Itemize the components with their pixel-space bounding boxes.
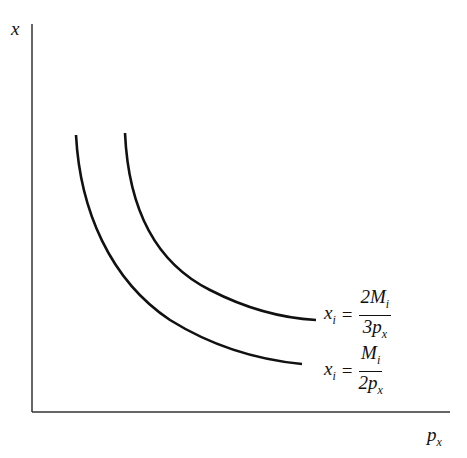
- eq-upper-num-sub: i: [386, 297, 389, 311]
- eq-lower-num: M: [361, 342, 377, 363]
- y-axis-label: x: [11, 18, 19, 40]
- curve-inner: [76, 135, 302, 364]
- eq-lower-den-sub: x: [378, 383, 383, 397]
- eq-lower-lhs-sub: i: [332, 369, 335, 383]
- eq-upper-num: 2M: [361, 286, 386, 307]
- eq-lower-den: 2p: [359, 372, 378, 393]
- eq-lower-equals: =: [342, 360, 353, 382]
- x-axis-label: px: [427, 424, 442, 450]
- diagram-canvas: [0, 0, 467, 458]
- eq-lower-fraction: Mi 2px: [359, 342, 383, 401]
- x-axis-label-base: p: [427, 424, 437, 445]
- eq-upper-fraction: 2Mi 3px: [359, 286, 392, 345]
- eq-upper-den: 3p: [363, 316, 382, 337]
- curve-outer: [125, 133, 316, 320]
- equation-upper: xi = 2Mi 3px: [324, 286, 391, 345]
- eq-lower-num-sub: i: [377, 353, 380, 367]
- equation-lower: xi = Mi 2px: [324, 342, 383, 401]
- eq-upper-equals: =: [342, 304, 353, 326]
- eq-upper-den-sub: x: [382, 327, 387, 341]
- eq-upper-lhs-sub: i: [332, 313, 335, 327]
- x-axis-label-sub: x: [437, 435, 442, 449]
